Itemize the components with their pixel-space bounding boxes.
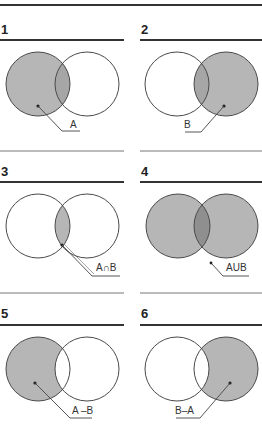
panel-number-2: 2 [141, 22, 148, 37]
label-a-union-b: AUB [226, 262, 247, 273]
venn-panel-4: AUB [146, 194, 258, 276]
label-a-minus-b: A –B [72, 405, 93, 416]
panel-number-5: 5 [1, 306, 8, 321]
panel-number-4: 4 [141, 164, 149, 179]
venn-diagram-grid: 1 2 3 4 5 6 A B A∩B [0, 0, 262, 434]
panel-number-1: 1 [1, 22, 8, 37]
venn-panel-3: A∩B [6, 194, 120, 276]
panel-number-3: 3 [1, 164, 8, 179]
venn-panel-6: B–A [145, 337, 258, 418]
label-b: B [184, 119, 191, 130]
panel-number-6: 6 [141, 306, 148, 321]
label-a: A [70, 119, 77, 130]
venn-panel-2: B [145, 52, 258, 132]
label-a-intersect-b: A∩B [96, 262, 117, 273]
venn-panel-1: A [6, 52, 119, 131]
venn-panel-5: A –B [6, 337, 119, 418]
label-b-minus-a: B–A [175, 405, 194, 416]
